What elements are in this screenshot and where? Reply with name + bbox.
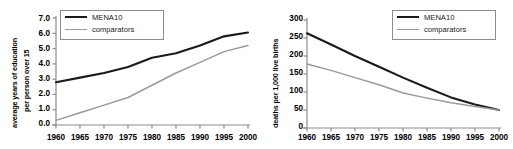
left-legend-swatch-comparators	[65, 29, 87, 30]
right-legend-label-mena10: MENA10	[424, 13, 454, 22]
left-legend-item-comparators: comparators	[61, 23, 163, 35]
left-legend: MENA10 comparators	[60, 10, 164, 40]
right-xtick-2000: 2000	[483, 133, 513, 142]
right-legend-item-mena10: MENA10	[393, 11, 495, 23]
left-legend-swatch-mena10	[65, 16, 87, 18]
right-legend-label-comparators: comparators	[424, 25, 466, 34]
chart-panel-right: deaths per 1,000 live births 300 250 200…	[253, 0, 506, 149]
right-legend-item-comparators: comparators	[393, 23, 495, 35]
right-legend-swatch-mena10	[397, 16, 419, 18]
chart-panel-left: average years of education per person ov…	[0, 0, 253, 149]
right-legend: MENA10 comparators	[392, 10, 496, 40]
left-legend-item-mena10: MENA10	[61, 11, 163, 23]
left-legend-label-mena10: MENA10	[92, 13, 122, 22]
left-legend-label-comparators: comparators	[92, 25, 134, 34]
right-legend-swatch-comparators	[397, 29, 419, 30]
